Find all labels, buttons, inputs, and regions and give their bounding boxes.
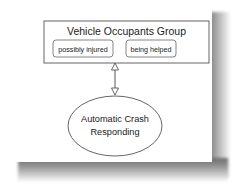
process-label-line2: Responding [90, 127, 139, 137]
group-title: Vehicle Occupants Group [67, 25, 186, 37]
state-label: being helped [130, 45, 171, 54]
state-being-helped[interactable]: being helped [126, 40, 176, 57]
bidirectional-arrow-icon [112, 63, 119, 95]
process-automatic-crash-responding[interactable]: Automatic Crash Responding [68, 96, 162, 156]
opm-diagram: Vehicle Occupants Group possibly injured… [0, 0, 235, 186]
state-label: possibly injured [58, 45, 108, 54]
process-label-line1: Automatic Crash [81, 114, 149, 124]
state-possibly-injured[interactable]: possibly injured [53, 40, 113, 57]
